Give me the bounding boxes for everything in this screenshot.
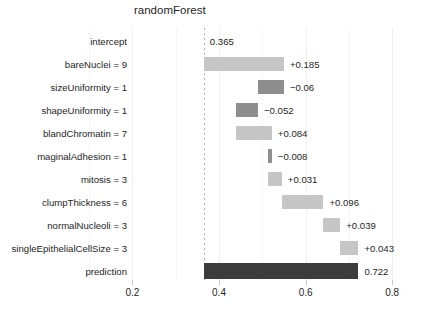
row-label: maginalAdhesion = 1 xyxy=(0,150,127,161)
x-axis: 0.20.40.60.8 xyxy=(0,280,434,315)
plot-panel: intercept0.365bareNuclei = 9+0.185sizeUn… xyxy=(0,28,434,280)
waterfall-row: maginalAdhesion = 1−0.008 xyxy=(0,144,434,167)
contribution-bar xyxy=(323,218,340,232)
row-label: prediction xyxy=(0,265,127,276)
row-label: singleEpithelialCellSize = 3 xyxy=(0,242,127,253)
row-label: intercept xyxy=(0,35,127,46)
contribution-bar xyxy=(268,149,272,163)
prediction-bar xyxy=(204,263,359,279)
x-tick xyxy=(392,280,393,285)
contribution-bar xyxy=(282,195,324,209)
waterfall-row: normalNucleoli = 3+0.039 xyxy=(0,213,434,236)
waterfall-row: sizeUniformity = 1−0.06 xyxy=(0,75,434,98)
contribution-value-label: +0.084 xyxy=(278,127,308,138)
waterfall-row: prediction0.722 xyxy=(0,259,434,282)
break-down-plot: randomForest intercept0.365bareNuclei = … xyxy=(0,0,434,315)
waterfall-row: clumpThickness = 6+0.096 xyxy=(0,190,434,213)
row-label: bareNuclei = 9 xyxy=(0,58,127,69)
contribution-bar xyxy=(236,103,259,117)
contribution-bar xyxy=(204,57,284,71)
waterfall-row: blandChromatin = 7+0.084 xyxy=(0,121,434,144)
waterfall-row: mitosis = 3+0.031 xyxy=(0,167,434,190)
x-tick-label: 0.2 xyxy=(125,287,139,298)
contribution-value-label: +0.043 xyxy=(364,242,394,253)
row-label: sizeUniformity = 1 xyxy=(0,81,127,92)
contribution-value-label: +0.039 xyxy=(346,219,376,230)
row-label: shapeUniformity = 1 xyxy=(0,104,127,115)
waterfall-row: shapeUniformity = 1−0.052 xyxy=(0,98,434,121)
x-tick xyxy=(219,280,220,285)
x-tick-label: 0.8 xyxy=(385,287,399,298)
row-label: blandChromatin = 7 xyxy=(0,127,127,138)
contribution-value-label: −0.06 xyxy=(290,81,314,92)
contribution-value-label: −0.052 xyxy=(264,104,294,115)
contribution-bar xyxy=(268,172,281,186)
waterfall-row: bareNuclei = 9+0.185 xyxy=(0,52,434,75)
contribution-value-label: +0.031 xyxy=(288,173,318,184)
x-tick xyxy=(132,280,133,285)
x-tick-label: 0.4 xyxy=(212,287,226,298)
waterfall-row: intercept0.365 xyxy=(0,29,434,52)
contribution-value-label: +0.185 xyxy=(290,58,320,69)
contribution-bar xyxy=(236,126,272,140)
x-tick xyxy=(306,280,307,285)
contribution-value-label: −0.008 xyxy=(278,150,308,161)
contribution-value-label: 0.722 xyxy=(364,265,388,276)
contribution-value-label: +0.096 xyxy=(329,196,359,207)
row-label: normalNucleoli = 3 xyxy=(0,219,127,230)
waterfall-row: singleEpithelialCellSize = 3+0.043 xyxy=(0,236,434,259)
contribution-bar xyxy=(340,241,358,255)
chart-title: randomForest xyxy=(134,4,206,16)
x-tick-label: 0.6 xyxy=(299,287,313,298)
row-label: mitosis = 3 xyxy=(0,173,127,184)
contribution-bar xyxy=(258,80,284,94)
contribution-value-label: 0.365 xyxy=(210,35,234,46)
row-label: clumpThickness = 6 xyxy=(0,196,127,207)
